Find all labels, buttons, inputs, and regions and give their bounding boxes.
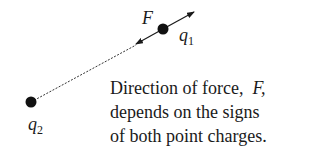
caption-line-1: Direction of force, F, xyxy=(110,76,267,100)
charge-q1-subscript: 1 xyxy=(188,34,194,48)
caption-line-1-text: Direction of force, xyxy=(110,78,243,98)
charge-q1-dot xyxy=(158,24,169,35)
charge-q2-dot xyxy=(26,97,37,108)
charge-q2-subscript: 2 xyxy=(37,123,43,137)
charge-q1-symbol: q xyxy=(179,25,188,45)
force-label: F xyxy=(142,9,153,27)
charge-q2-symbol: q xyxy=(28,114,37,134)
caption-line-3: of both point charges. xyxy=(110,124,267,148)
caption-force-var: F, xyxy=(252,78,265,98)
caption: Direction of force, F, depends on the si… xyxy=(110,76,267,148)
caption-line-2: depends on the signs xyxy=(110,100,267,124)
force-symbol: F xyxy=(142,8,153,28)
charge-q2-label: q2 xyxy=(28,115,43,139)
charge-q1-label: q1 xyxy=(179,26,194,50)
